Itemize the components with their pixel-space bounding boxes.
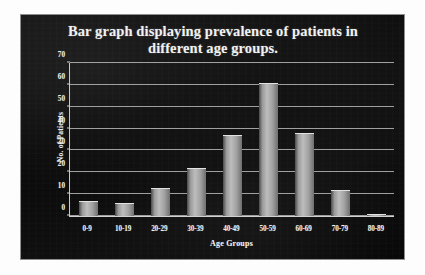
bar-30-39[interactable] <box>187 168 206 216</box>
x-axis-tick-label-70-79: 70-79 <box>322 225 358 233</box>
bar-slot <box>286 63 322 216</box>
x-axis-tick-label-20-29: 20-29 <box>141 225 177 233</box>
x-axis-tick-label-0-9: 0-9 <box>69 225 105 233</box>
bar-slot <box>70 63 106 216</box>
bar-60-69[interactable] <box>295 133 314 216</box>
bar-slot <box>322 63 358 216</box>
x-axis-tick-labels: 0-910-1920-2930-3940-4950-5960-6970-7980… <box>69 225 394 233</box>
bar-20-29[interactable] <box>151 188 170 216</box>
bar-50-59[interactable] <box>259 83 278 216</box>
bar-slot <box>358 63 394 216</box>
chart-title: Bar graph displaying prevalence of patie… <box>39 23 387 56</box>
y-axis-tick-label: 50 <box>58 95 65 103</box>
x-axis-tick-label-80-89: 80-89 <box>358 225 394 233</box>
bar-slot <box>178 63 214 216</box>
x-axis-tick-label-50-59: 50-59 <box>250 225 286 233</box>
bar-slot <box>250 63 286 216</box>
bar-slot <box>214 63 250 216</box>
x-axis-tick-label-30-39: 30-39 <box>177 225 213 233</box>
chart-panel: Bar graph displaying prevalence of patie… <box>20 14 405 260</box>
chart-page: Bar graph displaying prevalence of patie… <box>0 0 425 275</box>
bar-70-79[interactable] <box>331 190 350 216</box>
chart-title-line-1: Bar graph displaying prevalence of patie… <box>39 23 387 40</box>
x-axis-tick-label-10-19: 10-19 <box>105 225 141 233</box>
x-axis-tick-label-60-69: 60-69 <box>286 225 322 233</box>
bar-slot <box>106 63 142 216</box>
chart-title-line-2: different age groups. <box>39 40 387 57</box>
y-axis-title: No. of Patients <box>56 112 65 162</box>
bar-40-49[interactable] <box>223 135 242 216</box>
bar-80-89[interactable] <box>367 214 386 216</box>
bar-0-9[interactable] <box>79 201 98 216</box>
bar-series <box>70 63 394 216</box>
bar-slot <box>142 63 178 216</box>
plot-area: 706050403020100 <box>69 63 394 217</box>
y-axis-tick-label: 10 <box>58 182 65 190</box>
x-axis-tick-label-40-49: 40-49 <box>213 225 249 233</box>
bar-10-19[interactable] <box>115 203 134 216</box>
y-axis-tick-label: 60 <box>58 73 65 81</box>
x-axis-title: Age Groups <box>69 239 394 248</box>
plot-wrap: 706050403020100 <box>69 63 394 217</box>
y-axis-tick-label: 0 <box>61 204 65 212</box>
